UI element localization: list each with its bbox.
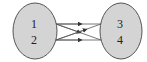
left-element-1: 1 bbox=[31, 17, 37, 31]
right-set-ellipse bbox=[100, 3, 142, 59]
left-element-2: 2 bbox=[31, 33, 37, 47]
right-element-4: 4 bbox=[117, 33, 123, 47]
mapping-diagram: 1 2 3 4 bbox=[0, 0, 147, 62]
right-element-3: 3 bbox=[117, 17, 123, 31]
arrows bbox=[56, 24, 101, 40]
left-set-ellipse bbox=[13, 3, 57, 59]
